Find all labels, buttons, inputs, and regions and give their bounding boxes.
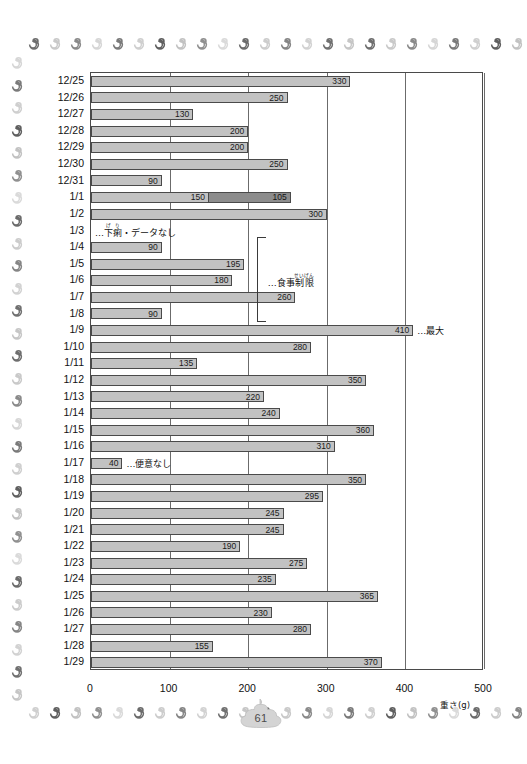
bar-row: 410…最大 bbox=[91, 322, 482, 339]
bar-segment: 360 bbox=[91, 425, 374, 436]
bar-value-label: 410 bbox=[395, 326, 412, 335]
bar-row: 150105 bbox=[91, 189, 482, 206]
bar-value-label: 245 bbox=[265, 509, 282, 518]
spiral-icon bbox=[299, 37, 315, 53]
diet-restriction-label: …食事制限せいげん bbox=[268, 273, 315, 289]
bar-segment: 195 bbox=[91, 259, 244, 270]
bar-group: 195 bbox=[91, 259, 244, 270]
gridline-500 bbox=[484, 73, 485, 669]
bar-row: 260 bbox=[91, 289, 482, 306]
bar-group: 410 bbox=[91, 325, 413, 336]
date-label: 1/17 bbox=[0, 454, 84, 471]
spiral-icon bbox=[236, 37, 252, 53]
row-note: …最大 bbox=[417, 324, 444, 337]
spiral-icon bbox=[47, 706, 63, 722]
date-label: 1/11 bbox=[0, 354, 84, 371]
bar-group: 350 bbox=[91, 474, 366, 485]
bar-row: 280 bbox=[91, 339, 482, 356]
date-label: 12/25 bbox=[0, 72, 84, 89]
date-label: 12/29 bbox=[0, 138, 84, 155]
spiral-icon bbox=[110, 37, 126, 53]
bar-value-label: 260 bbox=[277, 293, 294, 302]
bar-row: 275 bbox=[91, 555, 482, 572]
bar-value-label: 105 bbox=[272, 193, 289, 202]
date-label: 1/27 bbox=[0, 620, 84, 637]
bar-segment: 220 bbox=[91, 391, 264, 402]
spiral-icon bbox=[110, 706, 126, 722]
bar-group: 310 bbox=[91, 441, 335, 452]
bar-segment: 190 bbox=[91, 541, 240, 552]
spiral-icon bbox=[257, 37, 273, 53]
date-label: 1/5 bbox=[0, 255, 84, 272]
bar-segment: 350 bbox=[91, 474, 366, 485]
bar-row: 90 bbox=[91, 239, 482, 256]
bar-segment: 90 bbox=[91, 175, 162, 186]
date-label: 12/27 bbox=[0, 105, 84, 122]
bar-group: 90 bbox=[91, 242, 162, 253]
spiral-icon bbox=[68, 706, 84, 722]
bar-group: 180 bbox=[91, 275, 232, 286]
bar-row: 200 bbox=[91, 123, 482, 140]
bar-segment: 90 bbox=[91, 308, 162, 319]
bar-segment: 230 bbox=[91, 607, 272, 618]
spiral-icon bbox=[68, 37, 84, 53]
bar-value-label: 230 bbox=[254, 609, 271, 618]
spiral-icon bbox=[488, 37, 504, 53]
bar-row: 330 bbox=[91, 73, 482, 90]
spiral-icon bbox=[362, 706, 378, 722]
bar-segment: 365 bbox=[91, 591, 378, 602]
bar-value-label: 155 bbox=[195, 642, 212, 651]
bar-value-label: 280 bbox=[293, 343, 310, 352]
spiral-icon bbox=[9, 688, 25, 704]
bar-segment: 250 bbox=[91, 159, 288, 170]
bar-segment: 280 bbox=[91, 342, 311, 353]
bar-group: 135 bbox=[91, 358, 197, 369]
bar-row: 230 bbox=[91, 605, 482, 622]
bar-value-label: 130 bbox=[175, 110, 192, 119]
bar-value-label: 350 bbox=[348, 476, 365, 485]
bar-group: 365 bbox=[91, 591, 378, 602]
bar-value-label: 365 bbox=[360, 592, 377, 601]
bar-segment: 90 bbox=[91, 242, 162, 253]
spiral-icon bbox=[446, 706, 462, 722]
bar-value-label: 240 bbox=[261, 409, 278, 418]
x-tick-label: 300 bbox=[317, 682, 335, 694]
date-label: 1/20 bbox=[0, 504, 84, 521]
bar-segment: 295 bbox=[91, 491, 323, 502]
bar-value-label: 220 bbox=[246, 393, 263, 402]
page-number: 61 bbox=[255, 712, 268, 731]
bar-value-label: 310 bbox=[316, 442, 333, 451]
date-label: 1/7 bbox=[0, 288, 84, 305]
bar-row: 190 bbox=[91, 538, 482, 555]
date-label: 1/18 bbox=[0, 471, 84, 488]
date-label: 1/13 bbox=[0, 388, 84, 405]
bar-group: 245 bbox=[91, 524, 284, 535]
bar-row: 90 bbox=[91, 173, 482, 190]
bar-value-label: 135 bbox=[179, 359, 196, 368]
date-label: 1/10 bbox=[0, 338, 84, 355]
spiral-icon bbox=[152, 706, 168, 722]
date-label: 1/8 bbox=[0, 305, 84, 322]
bar-segment: 240 bbox=[91, 408, 280, 419]
spiral-icon bbox=[425, 37, 441, 53]
bar-value-label: 195 bbox=[226, 260, 243, 269]
x-tick-label: 200 bbox=[238, 682, 256, 694]
bar-value-label: 245 bbox=[265, 526, 282, 535]
x-tick-label: 100 bbox=[160, 682, 178, 694]
bar-group: 90 bbox=[91, 175, 162, 186]
date-label: 12/31 bbox=[0, 172, 84, 189]
date-label: 1/4 bbox=[0, 238, 84, 255]
bar-segment: 250 bbox=[91, 92, 288, 103]
bar-group: 155 bbox=[91, 641, 213, 652]
bar-row: 280 bbox=[91, 621, 482, 638]
date-label: 1/28 bbox=[0, 637, 84, 654]
bar-value-label: 350 bbox=[348, 376, 365, 385]
bar-value-label: 90 bbox=[148, 310, 160, 319]
bar-value-label: 190 bbox=[222, 542, 239, 551]
bar-group: 240 bbox=[91, 408, 280, 419]
bar-row: 220 bbox=[91, 389, 482, 406]
spiral-icon bbox=[383, 37, 399, 53]
bar-segment: 200 bbox=[91, 126, 248, 137]
spiral-icon bbox=[320, 37, 336, 53]
bar-row: 90 bbox=[91, 306, 482, 323]
